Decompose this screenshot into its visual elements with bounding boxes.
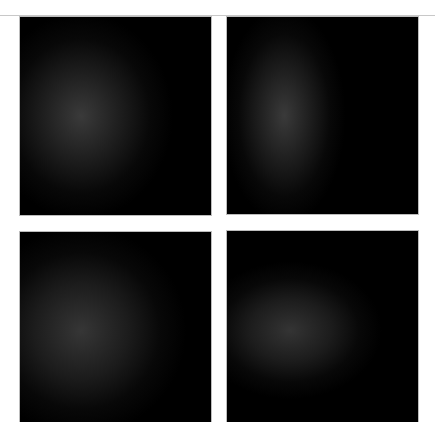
image-panel-top-right [227,17,418,214]
image-panel-bottom-left [20,232,211,422]
image-panel-top-left [20,17,211,215]
glow-region [227,17,418,214]
glow-region [227,231,418,422]
image-panel-bottom-right [227,231,418,422]
top-divider-line [0,15,435,16]
glow-region [20,17,211,215]
glow-region [20,232,211,422]
